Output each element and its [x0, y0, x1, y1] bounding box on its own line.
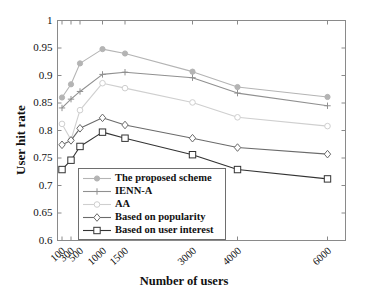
- legend-item-0[interactable]: The proposed scheme: [79, 171, 225, 184]
- data-point-marker: [94, 227, 100, 233]
- data-point-marker: [122, 69, 128, 75]
- legend-item-3[interactable]: Based on popularity: [79, 210, 225, 223]
- data-point-marker: [99, 129, 105, 135]
- data-point-marker: [122, 135, 128, 141]
- data-point-marker: [325, 123, 331, 129]
- data-point-marker: [189, 134, 195, 142]
- y-tick-label: 0.65: [23, 206, 53, 218]
- legend-marker-square-icon: [82, 223, 112, 236]
- legend-marker-filled-circle-icon: [82, 171, 112, 184]
- y-tick-label: 0.7: [23, 179, 53, 191]
- data-point-marker: [77, 107, 83, 113]
- data-point-marker: [190, 100, 196, 106]
- data-point-marker: [235, 84, 240, 89]
- data-point-marker: [235, 115, 241, 121]
- data-point-marker: [234, 90, 240, 96]
- data-point-marker: [59, 121, 65, 127]
- legend-marker-diamond-icon: [82, 210, 112, 223]
- data-series-group: [59, 47, 331, 183]
- data-point-marker: [122, 85, 128, 91]
- data-point-marker: [100, 47, 105, 52]
- legend-item-4[interactable]: Based on user interest: [79, 223, 225, 236]
- y-tick-label: 0.85: [23, 96, 53, 108]
- data-point-marker: [189, 75, 195, 81]
- y-tick-label: 0.9: [23, 69, 53, 81]
- legend-marker-plus-icon: [82, 184, 112, 197]
- chart-container: User hit rate Number of users 0.60.650.7…: [0, 0, 368, 296]
- data-point-marker: [68, 157, 74, 163]
- data-point-marker: [59, 166, 65, 172]
- data-point-marker: [68, 82, 73, 87]
- data-point-marker: [234, 144, 240, 152]
- y-tick-label: 0.8: [23, 124, 53, 136]
- data-point-marker: [59, 95, 64, 100]
- data-point-marker: [325, 94, 330, 99]
- data-point-marker: [324, 150, 330, 158]
- legend-label: Based on user interest: [115, 224, 214, 235]
- data-point-marker: [100, 80, 106, 86]
- y-tick-label: 0.6: [23, 234, 53, 246]
- data-point-marker: [77, 61, 82, 66]
- y-tick-label: 0.95: [23, 41, 53, 53]
- data-point-marker: [122, 51, 127, 56]
- data-point-marker: [94, 188, 100, 194]
- data-point-marker: [77, 143, 83, 149]
- data-point-marker: [99, 114, 105, 122]
- legend-item-1[interactable]: IENN-A: [79, 184, 225, 197]
- data-point-marker: [324, 103, 330, 109]
- series-0: [59, 47, 330, 101]
- data-point-marker: [234, 166, 240, 172]
- data-point-marker: [122, 121, 128, 129]
- data-point-marker: [94, 176, 99, 181]
- data-point-marker: [190, 69, 195, 74]
- data-point-marker: [94, 202, 100, 208]
- legend-marker-open-circle-icon: [82, 197, 112, 210]
- chart-legend: The proposed schemeIENN-AAABased on popu…: [78, 168, 226, 240]
- legend-label: AA: [115, 198, 130, 209]
- series-line: [62, 118, 328, 154]
- data-point-marker: [59, 141, 65, 149]
- y-tick-label: 0.75: [23, 151, 53, 163]
- legend-label: Based on popularity: [115, 211, 205, 222]
- data-point-marker: [94, 214, 100, 222]
- y-tick-label: 1: [23, 14, 53, 26]
- data-point-marker: [189, 152, 195, 158]
- legend-label: The proposed scheme: [115, 172, 212, 183]
- data-point-marker: [324, 176, 330, 182]
- legend-item-2[interactable]: AA: [79, 197, 225, 210]
- x-axis-title: Number of users: [0, 274, 368, 289]
- y-axis-title: User hit rate: [13, 105, 29, 175]
- legend-label: IENN-A: [115, 185, 152, 196]
